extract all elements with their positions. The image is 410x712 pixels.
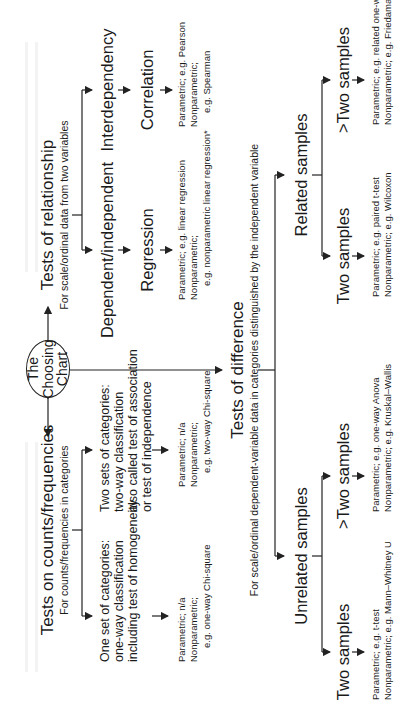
desc-line: one-way classification: [112, 500, 126, 662]
note-line: Parametric; n/a: [176, 423, 187, 487]
choosing-chart-diagram: The Choosing Chart Tests of relationship…: [0, 0, 410, 712]
note-line: Nonparametric; e.g. Kruskal–Wallis: [382, 364, 393, 512]
unrelated-more-samples-node: >Two samples: [334, 423, 353, 529]
relationship-subtitle: For scale/ordinal data from two variable…: [58, 120, 70, 309]
regression-node: Regression: [138, 208, 157, 291]
unrelated-two-notes: Parametric; e.g. t-test Nonparametric; e…: [370, 541, 395, 700]
two-way-chi-notes: Parametric; n/a Nonparametric; e.g. two-…: [176, 371, 213, 487]
unrelated-more-notes: Parametric; e.g. one-way Anova Nonparame…: [370, 364, 395, 512]
note-line: Nonparametric;: [188, 422, 199, 487]
root-label-line-3: Chart: [55, 339, 70, 398]
note-line: Nonparametric; e.g. Friedaman Anova*: [382, 0, 393, 125]
two-sets-categories-node: Two sets of categories: two-way classifi…: [98, 349, 154, 512]
counts-subtitle: For counts/frequencies in categories: [58, 445, 70, 614]
desc-line: two-way classification: [112, 349, 126, 512]
note-line: Nonparametric;: [188, 235, 199, 300]
desc-line: including test of homogeneity: [126, 500, 140, 662]
desc-line: also called test of association: [126, 349, 140, 512]
difference-subtitle: For scale/ordinal dependent-variable dat…: [248, 144, 260, 596]
correlation-notes: Parametric; e.g. Pearson Nonparametric; …: [176, 22, 213, 127]
regression-notes: Parametric; e.g. linear regression Nonpa…: [176, 130, 213, 300]
note-line: Nonparametric;: [188, 62, 199, 127]
note-line: e.g. two-way Chi-square: [201, 371, 213, 487]
note-line: e.g. one-way Chi-square: [201, 545, 213, 663]
unrelated-samples-node: Unrelated samples: [292, 487, 311, 625]
related-two-samples-node: Two samples: [334, 208, 353, 304]
note-line: Nonparametric;: [188, 597, 199, 662]
desc-line: One set of categories:: [98, 500, 112, 662]
note-line: Parametric; e.g. t-test: [370, 609, 381, 700]
counts-title: Tests on counts/frequencies: [38, 425, 58, 636]
root-node: The Choosing Chart: [26, 340, 70, 398]
relationship-title: Tests of relationship: [38, 140, 58, 290]
note-line: e.g. Spearman: [201, 22, 213, 127]
note-line: Parametric; e.g. one-way Anova: [370, 377, 381, 512]
one-way-chi-notes: Parametric; n/a Nonparametric; e.g. one-…: [176, 545, 213, 663]
note-line: Nonparametric; e.g. Wilcoxon: [382, 172, 393, 297]
desc-line: or test of independence: [140, 349, 154, 512]
desc-line: Two sets of categories:: [98, 349, 112, 512]
note-line: Parametric; n/a: [176, 598, 187, 662]
related-more-samples-node: >Two samples: [334, 27, 353, 133]
root-label-line-2: Choosing: [41, 339, 56, 398]
interdependency-node: Interdependency: [98, 29, 117, 152]
related-two-notes: Parametric; e.g. paired t-test Nonparame…: [370, 172, 395, 297]
one-set-categories-node: One set of categories: one-way classific…: [98, 500, 140, 662]
note-line: Parametric; e.g. paired t-test: [370, 177, 381, 297]
difference-title: Tests of difference: [228, 301, 248, 439]
note-line: Nonparametric; e.g. Mann–Whitney U: [382, 541, 393, 700]
note-line: Parametric; e.g. related one-way Anova*: [370, 0, 381, 125]
note-line: Parametric; e.g. Pearson: [176, 22, 187, 127]
dependent-independent-node: Dependent/independent: [98, 162, 117, 338]
related-more-notes: Parametric; e.g. related one-way Anova* …: [370, 0, 395, 125]
note-line: e.g. nonparametric linear regression*: [201, 130, 213, 300]
note-line: Parametric; e.g. linear regression: [176, 160, 187, 300]
unrelated-two-samples-node: Two samples: [334, 604, 353, 700]
root-label-line-1: The: [26, 339, 41, 398]
related-samples-node: Related samples: [292, 114, 311, 237]
correlation-node: Correlation: [138, 50, 157, 131]
